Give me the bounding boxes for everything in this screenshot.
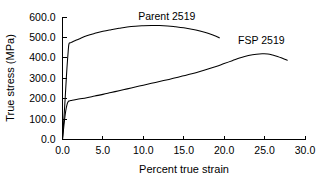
y-tick-label: 300.0 (29, 72, 55, 84)
series-label-parent-2519: Parent 2519 (138, 10, 195, 22)
y-tick-label: 400.0 (29, 51, 55, 63)
x-tick-label: 25.0 (254, 144, 275, 156)
x-tick-label: 30.0 (295, 144, 316, 156)
x-tick-label: 0.0 (55, 144, 70, 156)
y-tick-label: 600.0 (29, 11, 55, 23)
true-stress-strain-chart: 0.0100.0200.0300.0400.0500.0600.0 0.05.0… (0, 0, 321, 179)
y-tick-label: 500.0 (29, 31, 55, 43)
y-axis-title: True stress (MPa) (4, 34, 16, 122)
y-tick-label: 0.0 (41, 133, 56, 145)
y-tick-label: 100.0 (29, 113, 55, 125)
x-tick-label: 20.0 (214, 144, 235, 156)
y-tick-label: 200.0 (29, 92, 55, 104)
x-tick-label: 15.0 (174, 144, 195, 156)
series-label-fsp-2519: FSP 2519 (238, 34, 285, 46)
chart-plot-area: 0.0100.0200.0300.0400.0500.0600.0 0.05.0… (0, 0, 321, 179)
x-tick-label: 5.0 (96, 144, 111, 156)
x-axis-title: Percent true strain (139, 163, 229, 175)
x-tick-label: 10.0 (133, 144, 154, 156)
